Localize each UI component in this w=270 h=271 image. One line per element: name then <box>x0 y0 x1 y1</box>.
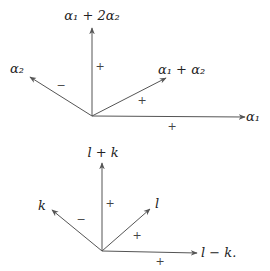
vector-label-lpk: l + k <box>87 145 118 160</box>
root-system-bottom: l + k+k−l+l − k.+ <box>38 145 236 268</box>
sign-lpk: + <box>105 197 114 210</box>
vector-label-lmk: l − k. <box>201 245 236 260</box>
vector-label-l: l <box>155 196 159 211</box>
vector-label-k: k <box>38 198 46 213</box>
sign-k: − <box>76 213 85 226</box>
vector-label-a1p2a2: α₁ + 2α₂ <box>64 8 119 23</box>
root-system-diagrams: α₁ + 2α₂+α₂−α₁ + α₂+α₁+l + k+k−l+l − k.+ <box>0 0 270 271</box>
sign-lmk: + <box>155 255 164 268</box>
root-system-top: α₁ + 2α₂+α₂−α₁ + α₂+α₁+ <box>10 8 260 133</box>
sign-a1: + <box>167 120 176 133</box>
vector-label-a1: α₁ <box>246 109 260 124</box>
sign-a2: − <box>56 79 65 92</box>
sign-a1pa2: + <box>137 94 146 107</box>
vector-label-a1pa2: α₁ + α₂ <box>158 62 205 77</box>
vector-label-a2: α₂ <box>10 61 24 76</box>
sign-a1p2a2: + <box>95 60 104 73</box>
arrow-l <box>102 209 150 251</box>
arrow-lmk <box>102 251 197 253</box>
sign-l: + <box>132 229 141 242</box>
arrow-a1pa2 <box>92 78 166 116</box>
arrow-a1 <box>92 116 245 117</box>
